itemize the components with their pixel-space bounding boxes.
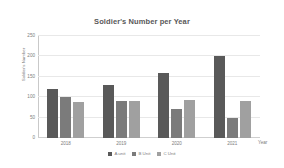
y-axis-title: Soldier's Number	[21, 41, 26, 89]
x-axis-tick-label: 2021	[227, 141, 237, 146]
chart-legend: A unitB UnitC Unit	[0, 151, 284, 156]
bar-group	[205, 36, 261, 138]
y-axis-tick-label: 250	[27, 33, 35, 38]
legend-label: A unit	[114, 151, 125, 156]
y-axis-tick-label: 0	[32, 135, 35, 140]
legend-label: C Unit	[163, 151, 175, 156]
bar[interactable]	[158, 73, 169, 138]
legend-label: B Unit	[138, 151, 150, 156]
bar[interactable]	[214, 56, 225, 138]
bar[interactable]	[73, 102, 84, 138]
bar-group	[149, 36, 205, 138]
y-axis-tick-label: 200	[27, 53, 35, 58]
bar-group	[38, 36, 94, 138]
bar[interactable]	[129, 101, 140, 138]
chart-container: Soldier's Number per Year Soldier's Numb…	[0, 0, 284, 168]
legend-item[interactable]: C Unit	[157, 151, 175, 156]
bar[interactable]	[171, 109, 182, 138]
x-axis-tick-label: 2020	[172, 141, 182, 146]
legend-item[interactable]: A unit	[108, 151, 125, 156]
bar-group	[94, 36, 150, 138]
bar[interactable]	[240, 101, 251, 138]
bar[interactable]	[227, 118, 238, 138]
y-axis-tick-label: 150	[27, 73, 35, 78]
y-axis-tick-label: 100	[27, 94, 35, 99]
bar[interactable]	[184, 100, 195, 138]
legend-swatch-icon	[132, 152, 136, 156]
legend-swatch-icon	[108, 152, 112, 156]
bar[interactable]	[103, 85, 114, 138]
legend-item[interactable]: B Unit	[132, 151, 150, 156]
x-axis-tick-label: 2018	[61, 141, 71, 146]
bar[interactable]	[47, 89, 58, 138]
y-axis-tick-label: 50	[30, 114, 35, 119]
legend-swatch-icon	[157, 152, 161, 156]
x-axis-tick-label: 2019	[116, 141, 126, 146]
plot-area: 050100150200250	[38, 36, 260, 138]
bar[interactable]	[116, 101, 127, 138]
x-axis-title: Year	[258, 140, 267, 145]
chart-title: Soldier's Number per Year	[0, 17, 284, 26]
bar[interactable]	[60, 97, 71, 138]
